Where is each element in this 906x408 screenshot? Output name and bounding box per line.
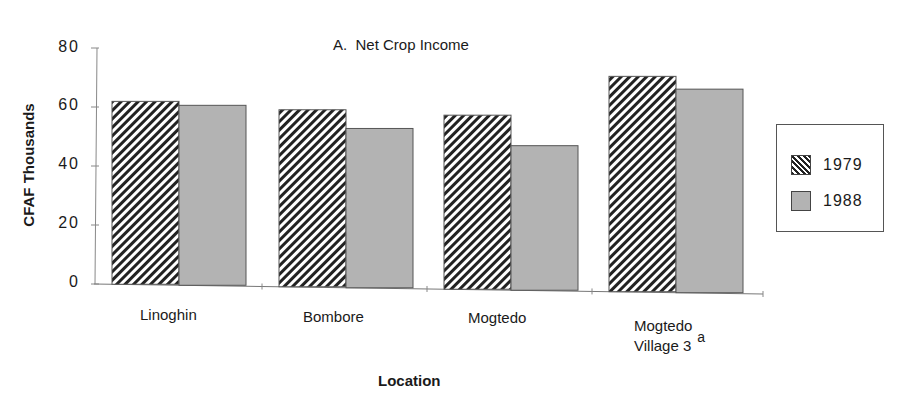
hatch-swatch-icon xyxy=(791,155,811,175)
category-line1: Linoghin xyxy=(140,306,197,323)
y-tick-label: 40 xyxy=(40,155,80,173)
category-line2: Village 3 xyxy=(634,337,691,354)
bar-1979 xyxy=(112,101,179,284)
x-axis-label: Location xyxy=(378,372,441,389)
y-tick-label: 0 xyxy=(40,273,80,291)
y-tick-label: 20 xyxy=(40,214,80,232)
bar-1988 xyxy=(511,146,578,291)
category-line1: Mogtedo xyxy=(468,309,526,326)
legend-label: 1988 xyxy=(823,192,863,210)
y-tick-label: 60 xyxy=(40,96,80,114)
bar-1979 xyxy=(279,110,346,287)
chart-plot-area xyxy=(0,0,906,408)
bar-1988 xyxy=(346,128,413,287)
chart-title: A. Net Crop Income xyxy=(333,36,469,53)
x-category-label: Bombore xyxy=(303,307,364,327)
gray-swatch-icon xyxy=(791,191,811,211)
legend-item-1988: 1988 xyxy=(791,191,863,211)
footnote-marker: a xyxy=(697,329,705,345)
x-category-label: Mogtedo Village 3a xyxy=(634,316,705,356)
legend-label: 1979 xyxy=(823,156,863,174)
category-line1: Mogtedo xyxy=(634,316,705,336)
bars xyxy=(112,76,743,292)
x-category-label: Linoghin xyxy=(140,305,197,325)
category-line1: Bombore xyxy=(303,308,364,325)
bar-1979 xyxy=(609,76,676,291)
y-tick-label: 80 xyxy=(40,38,80,56)
bar-1988 xyxy=(676,89,743,293)
bar-1979 xyxy=(444,115,511,289)
x-category-label: Mogtedo xyxy=(468,308,526,328)
y-axis-label: CFAF Thousands xyxy=(20,103,37,226)
bar-1988 xyxy=(179,105,246,285)
legend-item-1979: 1979 xyxy=(791,155,863,175)
legend: 1979 1988 xyxy=(776,124,884,232)
